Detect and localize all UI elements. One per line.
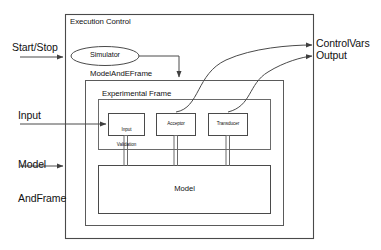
acceptor-label: Acceptor — [156, 122, 196, 127]
input-validation-label-line1: Input — [108, 128, 145, 133]
model-and-frame-label-line2: AndFrame — [18, 193, 66, 204]
start-stop-label: Start/Stop — [12, 42, 58, 53]
model-and-frame-label: Model AndFrame — [18, 136, 66, 227]
experimental-frame-label: Experimental Frame — [101, 90, 172, 98]
execution-control-label: Execution Control — [70, 18, 131, 26]
input-label: Input — [18, 110, 41, 121]
acceptor-model-coupling — [174, 136, 178, 167]
model-and-eframe-label: ModelAndEFrame — [89, 70, 153, 78]
output-label: Output — [316, 50, 347, 61]
model-and-frame-label-line1: Model — [18, 159, 66, 170]
simulator-label: Simulator — [83, 51, 127, 59]
input-validation-label: Input Validation — [108, 118, 145, 158]
input-validation-label-line2: Validation — [108, 143, 145, 148]
transducer-model-coupling — [226, 136, 230, 167]
control-vars-label: ControlVars — [316, 38, 370, 49]
model-label: Model — [98, 185, 271, 193]
transducer-label: Transducer — [208, 122, 248, 127]
diagram-canvas: Execution Control ModelAndEFrame Experim… — [0, 0, 381, 250]
